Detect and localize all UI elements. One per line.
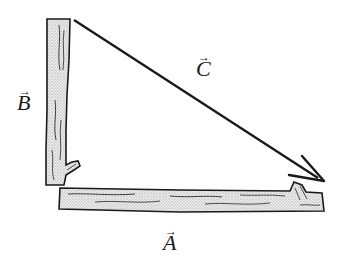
label-b: → B — [17, 92, 30, 114]
vector-arrow-icon: → — [19, 85, 31, 97]
log-b — [46, 19, 80, 185]
vector-arrow-icon: → — [165, 225, 177, 237]
label-c: → C — [196, 58, 211, 80]
label-a: → A — [163, 232, 176, 254]
vector-arrow-icon: → — [198, 51, 210, 63]
arrow-c — [74, 20, 324, 181]
log-a — [59, 182, 324, 212]
